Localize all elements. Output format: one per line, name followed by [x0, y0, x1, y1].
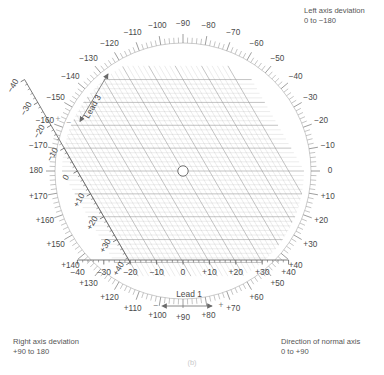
- lead1-negative-sign: −: [154, 300, 159, 310]
- lead1-positive-sign: +: [219, 300, 224, 310]
- degree-tick-label: −160: [36, 116, 55, 125]
- lead3-tick-label: −30: [18, 100, 34, 118]
- hexaxial-axis-diagram: −40−30−20−100+10+20+30+40 −40−30−20−100+…: [0, 0, 384, 375]
- degree-tick-label: −60: [250, 39, 264, 48]
- lead1-tick-label: −20: [123, 267, 138, 277]
- degree-tick-label: −90: [176, 19, 190, 28]
- degree-tick-label: −100: [148, 21, 167, 30]
- degree-tick-label: +80: [202, 311, 216, 320]
- figure-caption: (b): [0, 358, 384, 367]
- degree-tick-label: +110: [124, 304, 142, 313]
- degree-tick-label: +170: [29, 192, 48, 201]
- degree-tick-label: +160: [36, 216, 55, 225]
- degree-tick-label: +40: [289, 261, 303, 270]
- lead1-tick-label: −10: [149, 267, 164, 277]
- degree-tick-label: −130: [79, 54, 98, 63]
- degree-tick-label: −40: [289, 72, 303, 81]
- degree-tick-label: −150: [46, 93, 65, 102]
- lead1-tick-label: +20: [229, 267, 244, 277]
- lead1-tick-label: 0: [181, 267, 186, 277]
- lead3-negative-sign: −: [67, 117, 72, 127]
- degree-tick-label: −70: [226, 28, 240, 37]
- degree-tick-label: +30: [303, 240, 317, 249]
- degree-tick-label: −120: [100, 39, 119, 48]
- lead3-tick-label: −20: [31, 122, 47, 140]
- lead3-positive-sign: +: [56, 114, 61, 124]
- note-right-axis-deviation: Right axis deviation +90 to 180: [13, 337, 79, 357]
- degree-tick-label: +140: [61, 261, 80, 270]
- figure-root: −40−30−20−100+10+20+30+40 −40−30−20−100+…: [0, 0, 384, 375]
- degree-tick-label: +120: [100, 293, 119, 302]
- degree-tick-label: +60: [250, 293, 264, 302]
- degree-tick-label: −50: [271, 54, 285, 63]
- degree-tick-label: −140: [61, 72, 80, 81]
- lead1-axis: −40−30−20−100+10+20+30+40: [70, 260, 296, 277]
- lead1-tick-label: +10: [202, 267, 217, 277]
- degree-tick-label: −110: [124, 28, 142, 37]
- degree-tick-label: +50: [271, 279, 285, 288]
- degree-tick-label: +90: [176, 313, 190, 322]
- degree-tick-label: 0: [328, 166, 333, 175]
- degree-tick-label: +10: [321, 192, 335, 201]
- degree-tick-label: +20: [314, 216, 328, 225]
- lead1-axis-label: Lead 1: [176, 289, 202, 299]
- lead3-axis: −40−30−20−100+10+20+30+40: [5, 77, 130, 278]
- degree-tick-label: −20: [314, 116, 328, 125]
- degree-tick-label: +150: [46, 240, 65, 249]
- lead3-tick-label: −40: [5, 77, 21, 95]
- note-left-axis-deviation: Left axis deviation 0 to −180: [304, 6, 365, 26]
- note-normal-axis-direction: Direction of normal axis 0 to +90: [281, 337, 360, 357]
- degree-tick-label: +70: [226, 304, 240, 313]
- degree-tick-label: −10: [321, 141, 335, 150]
- origin-circle-marker: [178, 166, 188, 176]
- degree-tick-label: 180: [29, 166, 43, 175]
- degree-tick-label: −170: [29, 141, 48, 150]
- degree-tick-label: −30: [303, 93, 317, 102]
- degree-tick-label: +130: [79, 279, 98, 288]
- degree-tick-label: −80: [202, 21, 216, 30]
- degree-tick-label: +100: [148, 311, 167, 320]
